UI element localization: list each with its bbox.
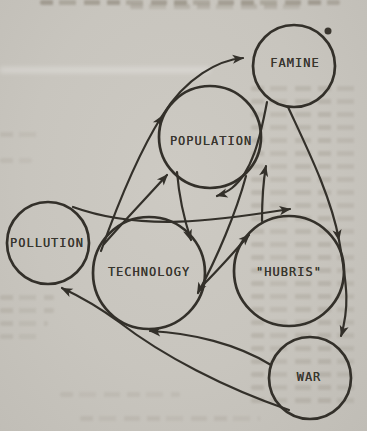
- node-label-technology: TECHNOLOGY: [108, 265, 190, 279]
- arrowhead-icon: [59, 284, 73, 297]
- node-label-hubris: "HUBRIS": [256, 265, 322, 279]
- page-background: FAMINEPOPULATIONPOLLUTIONTECHNOLOGY"HUBR…: [0, 0, 367, 431]
- node-label-pollution: POLLUTION: [10, 236, 84, 250]
- node-label-war: WAR: [297, 370, 322, 384]
- edge-junction-to-population: [104, 175, 167, 244]
- edge-famine-to-war: [288, 107, 346, 336]
- node-label-population: POPULATION: [170, 134, 252, 148]
- edge-war-to-pollution: [62, 288, 289, 410]
- arrowhead-icon: [215, 189, 228, 201]
- edge-war-to-technology: [150, 331, 271, 365]
- node-label-famine: FAMINE: [270, 56, 319, 70]
- printed-dot-artifact: [325, 28, 332, 35]
